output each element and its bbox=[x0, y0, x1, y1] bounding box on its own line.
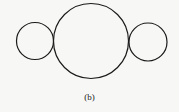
figure-caption: (b) bbox=[0, 92, 179, 102]
figure: (b) bbox=[0, 0, 179, 112]
right-small-circle bbox=[129, 23, 167, 61]
left-small-circle bbox=[17, 23, 54, 60]
center-large-circle bbox=[54, 4, 129, 79]
